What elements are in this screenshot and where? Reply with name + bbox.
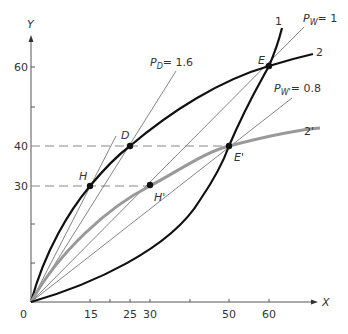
point-label-d: D xyxy=(121,129,129,142)
points: D E E' H H' xyxy=(79,54,272,204)
x-axis-label: X xyxy=(321,296,330,309)
y-tick-label-60: 60 xyxy=(14,61,28,74)
point-h xyxy=(87,183,93,189)
curve-label-2: 2 xyxy=(316,46,323,59)
production-possibility-diagram: Y X 0 15 25 30 50 60 30 40 60 xyxy=(0,0,348,334)
y-tick-label-30: 30 xyxy=(14,180,28,193)
x-tick-label-50: 50 xyxy=(222,308,236,321)
x-axis-arrow-icon xyxy=(311,300,318,305)
price-label-pw-prime: PW'= 0.8 xyxy=(274,82,321,97)
point-e-prime xyxy=(226,143,232,149)
curve-2 xyxy=(31,54,313,302)
origin-label: 0 xyxy=(20,308,27,321)
point-h-prime xyxy=(147,182,153,188)
y-tick-label-40: 40 xyxy=(14,140,28,153)
curve-labels: 1 2 2' xyxy=(275,15,323,138)
point-label-e-prime: E' xyxy=(234,151,244,164)
x-tick-label-15: 15 xyxy=(84,308,98,321)
dashed-guides xyxy=(31,146,229,186)
x-tick-label-25: 25 xyxy=(123,308,137,321)
y-axis-arrow-icon xyxy=(29,35,34,42)
curves xyxy=(31,28,320,302)
price-label-pd: PD= 1.6 xyxy=(150,56,193,71)
curve-label-2-prime: 2' xyxy=(304,125,314,138)
x-tick-label-60: 60 xyxy=(262,308,276,321)
price-label-pw: PW= 1 xyxy=(303,12,337,27)
chord-to-h xyxy=(31,136,116,302)
price-label-pw-prime-value: = 0.8 xyxy=(291,82,321,95)
point-label-e: E xyxy=(258,54,265,67)
point-e xyxy=(266,63,272,69)
point-d xyxy=(127,143,133,149)
curve-2-prime xyxy=(31,128,320,302)
point-label-h: H xyxy=(79,170,87,183)
price-label-pw-value: = 1 xyxy=(318,12,338,25)
x-tick-label-30: 30 xyxy=(143,308,157,321)
point-label-h-prime: H' xyxy=(154,191,165,204)
price-label-pw-prime-sub: W' xyxy=(281,88,291,97)
y-axis-label: Y xyxy=(27,18,35,31)
price-label-pd-value: = 1.6 xyxy=(163,56,193,69)
curve-label-1: 1 xyxy=(275,15,282,28)
